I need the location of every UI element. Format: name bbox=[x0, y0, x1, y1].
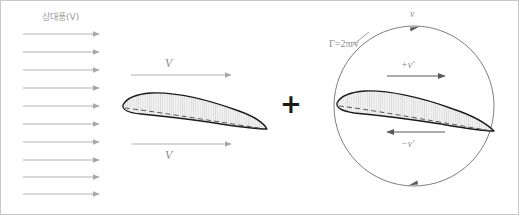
airfoil-right-group bbox=[337, 91, 494, 131]
plus-operator: + bbox=[280, 91, 302, 117]
gamma-leader-line bbox=[353, 32, 369, 45]
figure-canvas: 상대풍(V) V V + Γ=2πrv v +v′ −v′ bbox=[0, 0, 519, 215]
diagram-svg bbox=[1, 1, 519, 215]
circulation-arrowhead-top bbox=[410, 27, 419, 32]
airfoil-right-shape bbox=[337, 91, 494, 131]
freestream-arrow-group bbox=[23, 34, 99, 194]
airfoil-left-group bbox=[123, 93, 267, 129]
circulation-arrowhead-bottom bbox=[409, 181, 418, 186]
